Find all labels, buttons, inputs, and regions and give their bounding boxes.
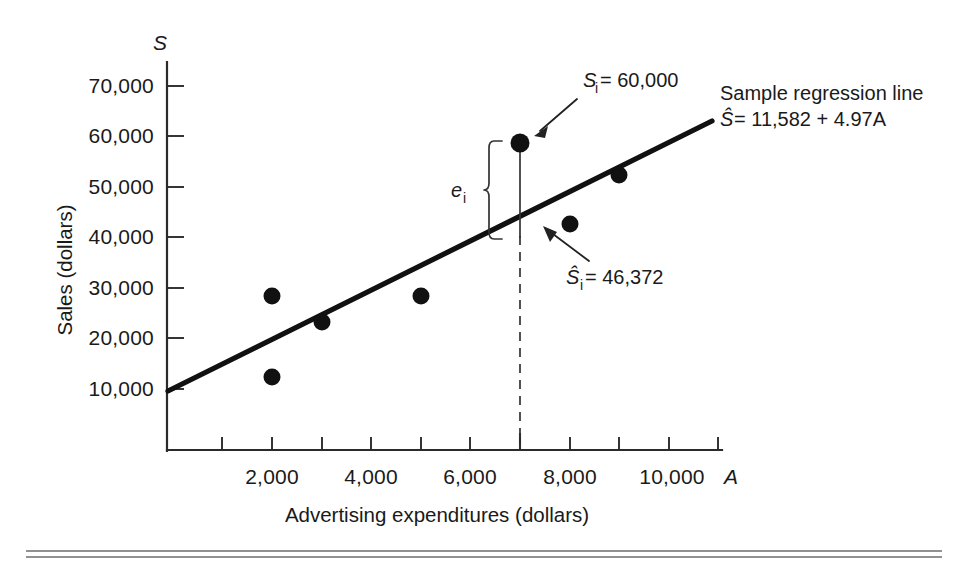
data-point — [413, 288, 430, 305]
y-tick-label: 30,000 — [89, 276, 154, 299]
observed-value-label-group: S i = 60,000 — [583, 69, 678, 96]
x-axis-variable-label: A — [722, 465, 738, 488]
x-tick-label: 4,000 — [344, 465, 398, 488]
regression-equation-body: = 11,582 + 4.97A — [734, 108, 887, 130]
fitted-value-label-group: Ŝ i = 46,372 — [566, 265, 663, 293]
residual-label: e — [451, 179, 462, 201]
y-tick-label: 60,000 — [89, 124, 154, 147]
data-point — [264, 288, 281, 305]
data-points — [264, 134, 628, 386]
observed-arrowhead — [534, 126, 548, 138]
y-tick-label: 40,000 — [89, 225, 154, 248]
data-point-highlighted — [511, 134, 530, 153]
residual-label-subscript: i — [463, 190, 466, 206]
y-tick-label: 50,000 — [89, 175, 154, 198]
x-tick-label: 10,000 — [639, 465, 704, 488]
y-axis-tick-labels: 70,000 60,000 50,000 40,000 30,000 20,00… — [89, 74, 154, 400]
y-axis-variable-label: S — [153, 31, 167, 54]
y-axis-ticks — [167, 86, 184, 389]
residual-label-group: e i — [451, 179, 466, 206]
fitted-value-number: = 46,372 — [585, 266, 663, 288]
x-axis-title: Advertising expenditures (dollars) — [285, 503, 589, 526]
observed-value-subscript: i — [595, 80, 598, 96]
regression-scatter-figure: 70,000 60,000 50,000 40,000 30,000 20,00… — [0, 0, 968, 568]
fitted-value-symbol: Ŝ — [566, 265, 580, 288]
x-tick-label: 6,000 — [443, 465, 497, 488]
y-tick-label: 70,000 — [89, 74, 154, 97]
regression-line — [168, 121, 712, 391]
regression-caption: Sample regression line Ŝ = 11,582 + 4.9… — [720, 82, 923, 130]
observed-value-number: = 60,000 — [600, 69, 678, 91]
observed-point-arrow — [534, 99, 577, 138]
data-point — [314, 314, 331, 331]
data-point — [562, 216, 579, 233]
regression-caption-line1: Sample regression line — [720, 82, 923, 104]
x-tick-label: 2,000 — [245, 465, 299, 488]
regression-equation-symbol: Ŝ — [720, 107, 734, 130]
x-axis-tick-labels: 2,000 4,000 6,000 8,000 10,000 — [245, 465, 705, 488]
data-point — [264, 369, 281, 386]
x-tick-label: 8,000 — [543, 465, 597, 488]
fitted-value-subscript: i — [580, 277, 583, 293]
y-axis-title: Sales (dollars) — [53, 204, 76, 335]
x-axis-ticks — [222, 433, 718, 450]
y-tick-label: 20,000 — [89, 326, 154, 349]
bottom-double-rule — [26, 551, 942, 557]
data-point — [611, 167, 628, 184]
fitted-arrowhead — [543, 226, 557, 242]
y-tick-label: 10,000 — [89, 377, 154, 400]
